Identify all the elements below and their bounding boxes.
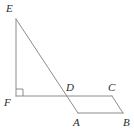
right-angle-mark-at-f	[16, 89, 23, 96]
geometry-figure: EFDCAB	[0, 0, 134, 135]
vertex-label-e: E	[6, 3, 13, 14]
vertex-label-b: B	[123, 117, 130, 128]
vertex-label-a: A	[73, 117, 80, 128]
vertex-label-f: F	[4, 97, 11, 108]
geometry-canvas	[0, 0, 134, 135]
vertex-label-d: D	[66, 82, 74, 93]
vertex-label-c: C	[108, 82, 115, 93]
right-angle-group	[16, 89, 23, 96]
segment-ea	[16, 19, 78, 113]
segments-group	[16, 19, 123, 113]
segment-cb	[112, 96, 123, 113]
